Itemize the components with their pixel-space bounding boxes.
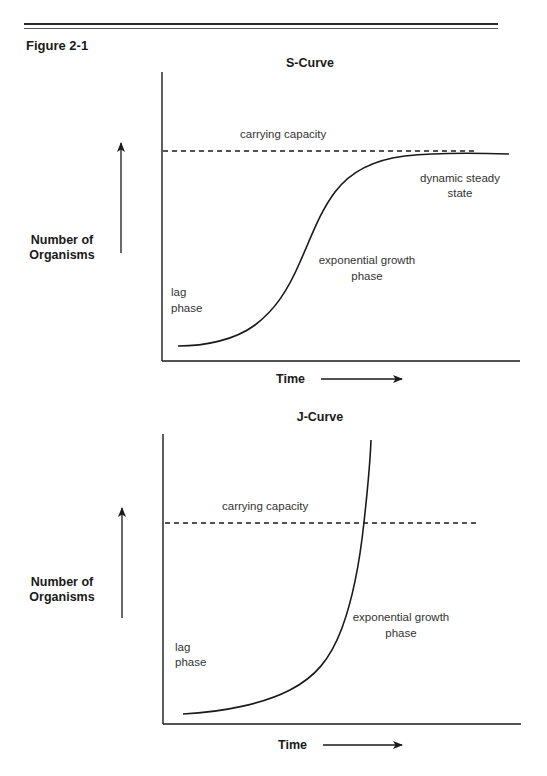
s-ylabel-line2: Organisms xyxy=(29,248,94,262)
s-lag-label-line2: phase xyxy=(171,302,202,314)
j-lag-label-line2: phase xyxy=(175,656,206,668)
j-lag-label-line1: lag xyxy=(175,641,190,653)
s-curve-title: S-Curve xyxy=(286,56,334,70)
j-xlabel: Time xyxy=(278,738,307,752)
s-exp-growth-label-line1: exponential growth xyxy=(319,254,416,266)
s-carrying-capacity-label: carrying capacity xyxy=(240,128,327,140)
s-steady-state-label-line2: state xyxy=(448,187,473,199)
j-ylabel-line1: Number of xyxy=(31,575,94,589)
j-curve-title: J-Curve xyxy=(297,410,344,424)
s-steady-state-label-line1: dynamic steady xyxy=(420,172,500,184)
j-ylabel-line2: Organisms xyxy=(29,590,94,604)
s-lag-label-line1: lag xyxy=(171,286,186,298)
s-curve-chart: S-Curve Number of Organisms carrying cap… xyxy=(29,56,520,386)
j-carrying-capacity-label: carrying capacity xyxy=(222,500,309,512)
s-ylabel-line1: Number of xyxy=(31,233,94,247)
j-exp-growth-label-line1: exponential growth xyxy=(353,611,450,623)
j-curve-line xyxy=(183,440,371,714)
s-exp-growth-label-line2: phase xyxy=(351,270,382,282)
s-xlabel: Time xyxy=(276,372,305,386)
j-exp-growth-label-line2: phase xyxy=(385,627,416,639)
j-curve-chart: J-Curve Number of Organisms carrying cap… xyxy=(29,410,521,752)
